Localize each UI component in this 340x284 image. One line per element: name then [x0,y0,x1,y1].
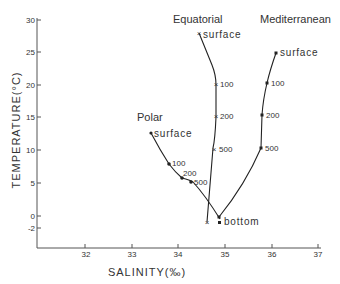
polar-100-label: 100 [172,159,186,168]
dot-marker-icon [218,221,221,224]
equatorial-200-label: 200 [220,112,234,121]
dot-marker-icon [167,162,171,166]
mediterranean-curve [219,53,276,217]
square-marker-icon [218,216,221,219]
polar-surface-label: surface [154,128,192,139]
polar-label: Polar [137,111,163,123]
y-tick-label: 25 [26,48,35,57]
equatorial-curve [199,33,216,222]
x-tick-labels: 32 33 34 35 36 37 [82,250,323,259]
dot-marker-icon [189,180,193,184]
x-marker-icon: × [214,112,219,121]
y-ticks [37,20,41,228]
x-axis-title: SALINITY(‰) [108,266,186,278]
y-tick-labels: 30 25 20 15 10 5 0 -2 [26,16,35,233]
square-marker-icon [275,52,278,55]
ts-diagram: 30 25 20 15 10 5 0 -2 32 33 34 35 36 37 … [0,0,340,284]
equatorial-label: Equatorial [173,13,223,25]
equatorial-500-label: 500 [219,145,233,154]
mediterranean-100-label: 100 [271,79,285,88]
polar-200-label: 200 [183,169,197,178]
y-tick-label: 15 [26,113,35,122]
mediterranean-label: Mediterranean [260,13,331,25]
x-tick-label: 37 [314,250,323,259]
dot-marker-icon [149,131,152,134]
x-marker-icon: × [212,145,217,154]
x-tick-label: 34 [174,250,183,259]
square-marker-icon [260,147,263,150]
x-marker-icon: × [214,80,219,89]
y-axis-title: TEMPERATURE(°C) [10,72,22,189]
x-tick-label: 36 [268,250,277,259]
equatorial-100-label: 100 [220,80,234,89]
x-tick-label: 35 [221,250,230,259]
y-tick-label: 30 [26,16,35,25]
square-marker-icon [266,82,269,85]
y-tick-label: 0 [31,212,36,221]
equatorial-surface-label: surface [203,29,241,40]
polar-500-label: 500 [194,178,208,187]
mediterranean-500-label: 500 [265,144,279,153]
bottom-label: bottom [224,216,259,227]
x-tick-label: 32 [82,250,91,259]
y-tick-label: 10 [26,146,35,155]
x-tick-label: 33 [128,250,137,259]
x-marker-icon: × [205,218,210,227]
x-marker-icon: × [197,29,202,38]
y-tick-label: 5 [31,179,36,188]
square-marker-icon [261,114,264,117]
x-ticks [85,244,318,248]
y-tick-label: 20 [26,81,35,90]
mediterranean-200-label: 200 [266,111,280,120]
mediterranean-surface-label: surface [280,47,318,58]
y-tick-label: -2 [28,224,36,233]
